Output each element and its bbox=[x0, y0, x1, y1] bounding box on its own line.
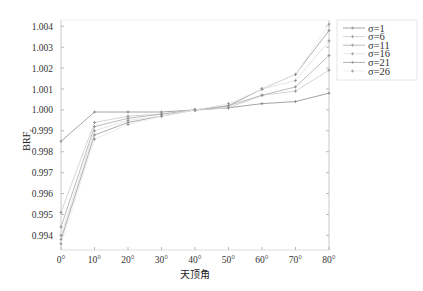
y-tick-label: 1.000 bbox=[32, 105, 54, 115]
series-layer bbox=[60, 23, 331, 246]
x-tick-label: 30° bbox=[155, 255, 169, 265]
y-tick-label: 0.995 bbox=[32, 210, 54, 220]
x-tick-label: 80° bbox=[322, 255, 336, 265]
y-tick-label: 0.996 bbox=[32, 189, 54, 199]
series-line bbox=[60, 29, 331, 241]
legend-label: σ=26 bbox=[368, 66, 390, 77]
series-line bbox=[60, 69, 331, 214]
y-axis: 0.9940.9950.9960.9970.9980.9991.0001.001… bbox=[32, 22, 329, 241]
series-line bbox=[60, 54, 331, 228]
plot-area bbox=[61, 20, 329, 250]
y-tick-label: 1.001 bbox=[32, 85, 54, 95]
x-tick-label: 0° bbox=[57, 255, 66, 265]
y-tick-label: 0.994 bbox=[32, 231, 54, 241]
x-axis-label: 天顶角 bbox=[180, 269, 210, 280]
x-tick-label: 70° bbox=[289, 255, 303, 265]
y-tick-label: 1.002 bbox=[32, 64, 54, 74]
line-chart: 0.9940.9950.9960.9970.9980.9991.0001.001… bbox=[0, 0, 423, 291]
y-axis-label: BRF bbox=[21, 131, 32, 150]
x-tick-label: 60° bbox=[255, 255, 269, 265]
y-tick-label: 1.004 bbox=[32, 22, 54, 32]
series-line bbox=[60, 92, 331, 143]
y-tick-label: 0.998 bbox=[32, 147, 54, 157]
x-tick-label: 10° bbox=[88, 255, 102, 265]
series-line bbox=[60, 39, 331, 236]
x-tick-label: 40° bbox=[188, 255, 202, 265]
x-tick-label: 20° bbox=[121, 255, 135, 265]
y-tick-label: 0.997 bbox=[32, 168, 54, 178]
y-tick-label: 1.003 bbox=[32, 43, 54, 53]
legend: σ=1σ=6σ=11σ=16σ=21σ=26 bbox=[337, 20, 417, 80]
x-tick-label: 50° bbox=[222, 255, 236, 265]
series-line bbox=[60, 23, 331, 246]
